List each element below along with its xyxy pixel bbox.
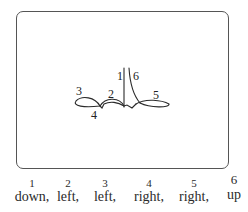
stroke-3-left-loop (75, 98, 100, 107)
legend-item-3: 3 left, (80, 177, 130, 204)
legend-item-6: 6 up (209, 173, 248, 202)
label-4: 4 (91, 108, 97, 122)
legend-number: 6 (209, 173, 248, 187)
legend-number: 3 (80, 177, 130, 189)
legend-direction: left, (80, 189, 130, 204)
label-2: 2 (108, 87, 114, 101)
label-3: 3 (76, 84, 82, 98)
label-1: 1 (117, 69, 123, 83)
legend-number: 4 (124, 177, 174, 189)
label-6: 6 (133, 69, 139, 83)
legend-item-4: 4 right, (124, 177, 174, 204)
stroke-4-right (100, 102, 136, 108)
stroke-number-labels: 1 2 3 4 5 6 (76, 69, 159, 122)
legend-direction: up (209, 187, 248, 202)
direction-legend: 1 down, 2 left, 3 left, 4 right, 5 right… (0, 173, 248, 212)
label-5: 5 (153, 88, 159, 102)
legend-direction: right, (124, 189, 174, 204)
